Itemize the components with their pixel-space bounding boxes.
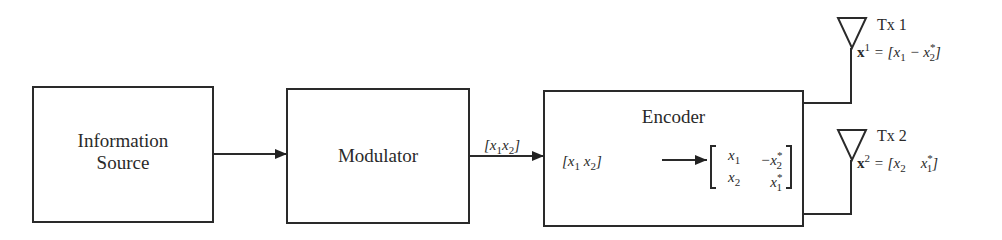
information-source-label: Information Source	[33, 130, 213, 174]
tx2-label: Tx 2	[877, 125, 907, 147]
matrix-right-bracket	[786, 146, 791, 188]
modulator-output-signal: [x1x2]	[484, 134, 520, 161]
tx1-equation: x1 = [x1 − x*2]	[857, 36, 941, 68]
diagram-lines	[0, 0, 1002, 240]
encoder-input-signal: [x1 x2]	[562, 150, 602, 177]
feed-line-tx1	[803, 48, 851, 103]
alamouti-block-diagram: Information Source Modulator Encoder [x1…	[0, 0, 1002, 240]
source-line2: Source	[33, 152, 213, 174]
tx1-label: Tx 1	[877, 14, 907, 36]
tx2-equation: x2 = [x2 x*1]	[857, 147, 938, 179]
source-line1: Information	[33, 130, 213, 152]
matrix-cell-2-2: x*1	[744, 166, 782, 198]
feed-line-tx2	[803, 160, 851, 214]
matrix-cell-2-1: x2	[728, 166, 740, 193]
matrix-left-bracket	[711, 146, 716, 188]
encoder-label: Encoder	[544, 106, 803, 128]
modulator-label: Modulator	[287, 145, 469, 167]
